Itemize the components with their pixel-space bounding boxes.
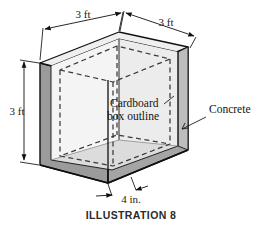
illustration-figure: 3 ft 3 ft 3 ft 4 in. Cardboa xyxy=(0,0,263,225)
dimension-label-top-left: 3 ft xyxy=(76,8,91,20)
thk-ext-inner xyxy=(131,177,136,190)
thk-arrow-left xyxy=(96,195,112,196)
dimension-label-left-height: 3 ft xyxy=(10,105,25,117)
ext-line-right xyxy=(190,37,196,48)
interior-back-right-wall xyxy=(119,39,178,146)
thk-arrow-right xyxy=(136,186,148,190)
dimension-left-height: 3 ft xyxy=(10,60,39,165)
ext-line-bot-h xyxy=(20,162,39,165)
figure-caption: ILLUSTRATION 8 xyxy=(86,209,177,221)
thk-ext-outer xyxy=(108,184,112,196)
annotation-cardboard-line2: box outline xyxy=(107,110,159,122)
annotation-concrete-label: Concrete xyxy=(209,103,251,115)
dimension-label-top-right: 3 ft xyxy=(159,16,174,28)
annotation-cardboard-line1: Cardboard xyxy=(110,97,159,109)
interior-right-side-wall xyxy=(178,47,188,150)
figure-canvas: 3 ft 3 ft 3 ft 4 in. Cardboa xyxy=(0,0,263,225)
annotation-concrete: Concrete xyxy=(182,103,251,129)
ext-line-top-h xyxy=(20,60,39,63)
ext-line-apex-r xyxy=(120,11,124,31)
ext-line-left xyxy=(40,28,43,60)
dimension-label-wall-thickness: 4 in. xyxy=(121,193,141,205)
